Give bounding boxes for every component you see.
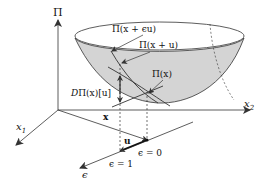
label-pi-x: Π(x): [152, 69, 172, 79]
label-pi-x-eps-u: Π(x + ϵu): [112, 24, 156, 34]
label-eps-zero: ϵ = 0: [138, 148, 162, 158]
label-u-vector: u: [124, 136, 131, 146]
label-pi-x-u: Π(x + u): [139, 40, 178, 50]
x1-axis-label: x1: [16, 121, 26, 135]
label-eps-axis: ϵ: [82, 169, 88, 180]
label-x-vector: x: [103, 112, 109, 122]
label-derivative: DΠ(x)[u]: [70, 88, 111, 98]
pi-axis-label: Π: [53, 6, 63, 19]
directional-derivative-diagram: Π x2 x1 Π(x + ϵu) Π(x + u) Π(x) DΠ(x)[u]…: [0, 0, 265, 183]
label-eps-one: ϵ = 1: [109, 159, 133, 169]
